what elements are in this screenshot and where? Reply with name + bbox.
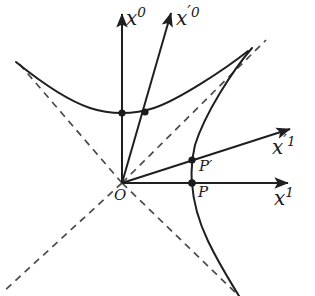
axis-label-x1-prime: x′1 [272, 133, 296, 157]
point-label-P: P [198, 185, 208, 200]
axis-x0-prime-line [122, 13, 171, 183]
diagram-canvas [0, 0, 315, 296]
axis-label-x0: x0 [126, 6, 146, 28]
lightcone-down-left-line [3, 183, 122, 292]
axis-label-x1-base: x [274, 186, 285, 210]
point-P-prime-dot [188, 156, 195, 163]
lightcone-up-left-line [16, 60, 122, 183]
axis-label-x0-prime-superscript: 0 [191, 4, 200, 20]
minkowski-diagram: x0 x′0 x1 x′1 O P P′ [0, 0, 315, 296]
point-label-P-prime: P′ [199, 159, 213, 174]
axis-label-x0-prime: x′0 [176, 4, 200, 28]
axis-label-x0-prime-base: x [176, 6, 187, 30]
axis-label-x1-prime-base: x [272, 135, 283, 159]
unit-time-point-primed-dot [141, 108, 148, 115]
axis-label-x1-prime-superscript: 1 [287, 133, 296, 149]
axis-label-x1-superscript: 1 [285, 184, 294, 200]
lightcone-down-right-line [122, 183, 240, 296]
axis-label-x1: x1 [274, 186, 294, 208]
origin-label: O [114, 188, 126, 203]
axis-label-x0-base: x [126, 6, 137, 30]
axis-label-x0-superscript: 0 [137, 4, 146, 20]
unit-time-point-dot [118, 109, 125, 116]
light-cone-lines [3, 40, 266, 296]
point-P-dot [188, 179, 196, 187]
